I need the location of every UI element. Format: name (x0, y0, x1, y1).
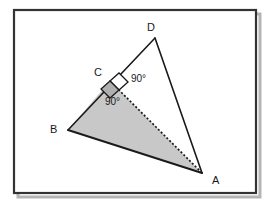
vertex-label-A: A (212, 174, 220, 186)
figure-canvas: 90° 90° A B C D (0, 0, 271, 205)
vertex-label-C: C (94, 66, 102, 78)
vertex-label-D: D (147, 21, 155, 33)
angle-label-BCA: 90° (105, 96, 120, 107)
angle-label-DCA: 90° (131, 73, 146, 84)
geometry-diagram: 90° 90° A B C D (0, 0, 271, 205)
figure-frame (14, 10, 256, 193)
vertex-label-B: B (50, 123, 57, 135)
